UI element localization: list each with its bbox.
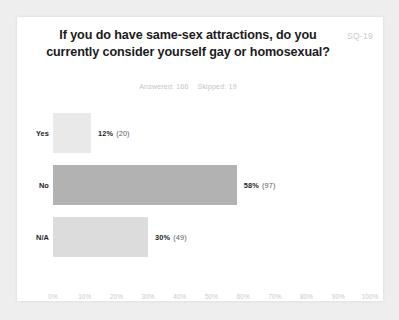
bar-count: (49) (173, 233, 187, 242)
bar-category-label: N/A (17, 233, 49, 242)
bar-track: 30%(49) (53, 217, 370, 257)
x-axis-tick-label: 30% (142, 293, 155, 300)
survey-question-card: SQ-19 If you do have same-sex attraction… (17, 17, 383, 301)
bar-percent: 30% (155, 233, 170, 242)
x-axis-tick-label: 90% (332, 293, 345, 300)
bar-segment[interactable] (53, 165, 237, 205)
page-title: If you do have same-sex attractions, do … (43, 27, 333, 60)
answered-count: Answered: 166 (139, 83, 188, 90)
x-axis-tick-label: 40% (173, 293, 186, 300)
x-axis-tick-label: 60% (237, 293, 250, 300)
response-summary: Answered: 166Skipped: 19 (43, 83, 333, 90)
bar-category-label: Yes (17, 129, 49, 138)
table-row: Yes12%(20) (17, 113, 383, 153)
table-row: N/A30%(49) (17, 217, 383, 257)
bar-count: (20) (116, 129, 130, 138)
bar-chart: Yes12%(20)No58%(97)N/A30%(49) 0%10%20%30… (17, 107, 383, 301)
bar-category-label: No (17, 181, 49, 190)
table-row: No58%(97) (17, 165, 383, 205)
bar-track: 58%(97) (53, 165, 370, 205)
question-code-label: SQ-19 (347, 31, 373, 41)
x-axis-tick-label: 70% (268, 293, 281, 300)
bar-segment[interactable] (53, 217, 148, 257)
bar-value-label: 12%(20) (98, 129, 130, 138)
bar-percent: 58% (244, 181, 259, 190)
bar-value-label: 30%(49) (155, 233, 187, 242)
bar-count: (97) (262, 181, 276, 190)
x-axis-tick-label: 50% (205, 293, 218, 300)
bar-percent: 12% (98, 129, 113, 138)
x-axis-tick-label: 10% (78, 293, 91, 300)
bar-segment[interactable] (53, 113, 91, 153)
bar-track: 12%(20) (53, 113, 370, 153)
x-axis: 0%10%20%30%40%50%60%70%80%90%100% (53, 293, 370, 307)
x-axis-tick-label: 0% (48, 293, 57, 300)
bar-value-label: 58%(97) (244, 181, 276, 190)
skipped-count: Skipped: 19 (198, 83, 237, 90)
x-axis-tick-label: 20% (110, 293, 123, 300)
x-axis-tick-label: 100% (362, 293, 379, 300)
x-axis-tick-label: 80% (300, 293, 313, 300)
